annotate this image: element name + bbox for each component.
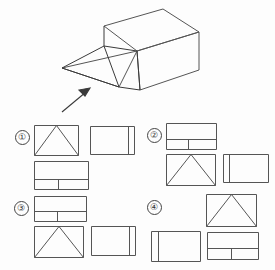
view-outline-rect	[224, 155, 269, 183]
view-outline-rect	[167, 124, 217, 150]
option-4-number-label: ④	[147, 200, 162, 215]
option-1-side-view-svg	[90, 126, 135, 155]
option-1-front-view-svg	[34, 125, 79, 156]
option-2-side-view[interactable]	[223, 154, 269, 183]
arrow-head	[79, 88, 90, 96]
view-outline-rect	[35, 162, 89, 190]
option-1-number: ①	[14, 130, 30, 146]
option-2[interactable]: ②	[139, 118, 275, 194]
option-1-top-view[interactable]	[34, 161, 89, 190]
option-3-number-label: ③	[14, 201, 29, 216]
option-3-number: ③	[13, 201, 29, 217]
option-4-number: ④	[146, 200, 162, 216]
option-3-top-view-svg	[34, 196, 87, 222]
option-1-side-view[interactable]	[90, 126, 135, 155]
option-4-side-view[interactable]	[151, 231, 201, 262]
option-2-front-view-svg	[166, 154, 216, 186]
arrow-shaft	[62, 92, 86, 112]
option-4[interactable]: ④	[139, 191, 275, 267]
inscribed-triangle	[207, 195, 257, 227]
view-outline-rect	[35, 227, 84, 258]
option-2-top-view-svg	[166, 123, 217, 150]
option-1-front-view-triangle[interactable]	[34, 125, 79, 156]
option-4-side-view-svg	[151, 231, 201, 262]
view-outline-rect	[167, 155, 216, 186]
inscribed-triangle	[35, 227, 84, 258]
inscribed-triangle	[167, 155, 216, 186]
view-outline-rect	[35, 197, 87, 222]
option-4-top-view[interactable]	[207, 232, 259, 260]
option-3-front-view-svg	[34, 226, 84, 258]
option-3[interactable]: ③	[0, 191, 137, 267]
option-2-number: ②	[146, 128, 162, 144]
option-3-front-view-triangle[interactable]	[34, 226, 84, 258]
option-3-top-view[interactable]	[34, 196, 87, 222]
option-2-number-label: ②	[147, 128, 162, 143]
view-outline-rect	[35, 126, 79, 156]
inscribed-triangle	[35, 126, 79, 156]
option-3-side-view-svg	[91, 226, 136, 256]
view-outline-rect	[91, 127, 135, 155]
option-2-side-view-svg	[223, 154, 269, 183]
option-2-front-view-triangle[interactable]	[166, 154, 216, 186]
worksheet-page: ①	[0, 0, 275, 270]
view-outline-rect	[208, 233, 259, 260]
option-4-front-view-svg	[206, 194, 257, 227]
option-3-side-view[interactable]	[91, 226, 136, 256]
option-4-top-view-svg	[207, 232, 259, 260]
option-1-number-label: ①	[15, 130, 30, 145]
option-1[interactable]: ①	[0, 118, 137, 194]
isometric-figure-area	[0, 0, 275, 120]
arrow-svg	[0, 0, 275, 120]
option-1-top-view-svg	[34, 161, 89, 190]
view-outline-rect	[92, 227, 136, 256]
answer-options-area: ①	[0, 118, 275, 270]
viewing-direction-arrow	[0, 0, 275, 120]
view-outline-rect	[207, 195, 257, 227]
option-4-front-view-triangle[interactable]	[206, 194, 257, 227]
option-2-top-view[interactable]	[166, 123, 217, 150]
